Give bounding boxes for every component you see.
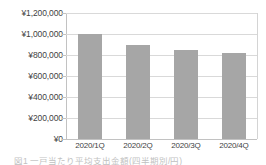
- x-axis-tick-label: 2020/2Q: [114, 141, 162, 151]
- x-axis-tick-label: 2020/1Q: [66, 141, 114, 151]
- bar[interactable]: [222, 53, 246, 139]
- y-axis-tick-labels: ¥0¥200,000¥400,000¥600,000¥800,000¥1,000…: [0, 0, 63, 165]
- x-axis-tick-labels: 2020/1Q2020/2Q2020/3Q2020/4Q: [66, 141, 258, 153]
- bar[interactable]: [126, 45, 150, 140]
- x-axis-tick-label: 2020/3Q: [162, 141, 210, 151]
- y-axis-tick-label: ¥1,200,000: [1, 9, 63, 18]
- bar[interactable]: [78, 34, 102, 139]
- x-axis-tick-label: 2020/4Q: [210, 141, 258, 151]
- y-axis-tick-label: ¥0: [1, 135, 63, 144]
- y-axis-tick-label: ¥1,000,000: [1, 30, 63, 39]
- bar-chart-figure: ¥0¥200,000¥400,000¥600,000¥800,000¥1,000…: [0, 0, 266, 165]
- bar[interactable]: [174, 50, 198, 139]
- y-axis-tick-label: ¥200,000: [1, 114, 63, 123]
- y-axis-tick-label: ¥800,000: [1, 51, 63, 60]
- y-axis-tick-label: ¥400,000: [1, 93, 63, 102]
- figure-caption: 図1 一戸当たり平均支出金額(四半期別/円): [14, 156, 254, 165]
- y-axis-tick-label: ¥600,000: [1, 72, 63, 81]
- bars-layer: [66, 13, 257, 139]
- plot-area: [66, 13, 258, 139]
- gridline: [66, 139, 257, 140]
